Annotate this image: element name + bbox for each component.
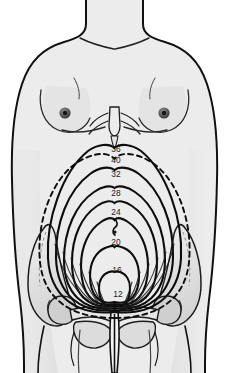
week-label-36: 36 (111, 144, 121, 154)
fundal-height-diagram: 36 40 32 28 24 20 16 12 (0, 0, 229, 373)
left-nipple-tip (63, 111, 67, 115)
right-nipple-tip (162, 111, 166, 115)
umbilicus-dot (113, 230, 116, 233)
week-label-40: 40 (111, 155, 121, 165)
sternum-body (109, 107, 120, 136)
week-label-24: 24 (111, 207, 121, 217)
week-label-16: 16 (112, 265, 122, 275)
torso-illustration: 36 40 32 28 24 20 16 12 (0, 0, 229, 373)
week-label-20: 20 (111, 237, 121, 247)
week-label-12: 12 (113, 289, 123, 299)
week-label-32: 32 (111, 169, 121, 179)
week-label-28: 28 (111, 188, 121, 198)
